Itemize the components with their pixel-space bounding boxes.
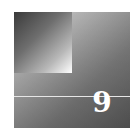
chapter-badge-inner-square [14,12,72,73]
chapter-number: 9 [90,89,114,117]
